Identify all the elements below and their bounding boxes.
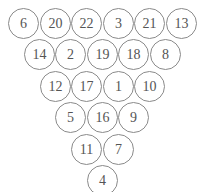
number-circle: 7 — [103, 134, 134, 165]
number-circle: 17 — [71, 71, 102, 102]
number-label: 12 — [49, 80, 63, 94]
number-label: 20 — [49, 17, 63, 31]
number-circle: 16 — [87, 102, 118, 133]
number-circle: 18 — [118, 39, 149, 70]
number-label: 2 — [67, 48, 74, 62]
number-circle: 21 — [134, 8, 165, 39]
number-label: 5 — [67, 111, 74, 125]
number-circle: 22 — [71, 8, 102, 39]
number-circle: 19 — [87, 39, 118, 70]
number-circle: 14 — [24, 39, 55, 70]
number-circle: 10 — [134, 71, 165, 102]
number-label: 1 — [115, 80, 122, 94]
number-label: 11 — [80, 143, 93, 157]
number-circle: 20 — [40, 8, 71, 39]
number-label: 14 — [33, 48, 47, 62]
number-label: 18 — [127, 48, 141, 62]
number-circle: 1 — [103, 71, 134, 102]
number-circle: 4 — [87, 165, 118, 192]
number-label: 8 — [162, 48, 169, 62]
number-circle: 11 — [71, 134, 102, 165]
number-circle: 12 — [40, 71, 71, 102]
number-circle: 13 — [166, 8, 197, 39]
number-label: 17 — [80, 80, 94, 94]
number-circle: 9 — [118, 102, 149, 133]
number-circle: 2 — [55, 39, 86, 70]
number-triangle: 6 20 22 3 21 13 14 2 19 18 8 12 17 1 10 … — [0, 0, 211, 192]
number-label: 13 — [175, 17, 189, 31]
number-label: 7 — [115, 143, 122, 157]
number-label: 3 — [115, 17, 122, 31]
number-label: 9 — [130, 111, 137, 125]
number-circle: 3 — [103, 8, 134, 39]
number-label: 19 — [96, 48, 110, 62]
number-label: 10 — [143, 80, 157, 94]
number-label: 6 — [20, 17, 27, 31]
number-label: 16 — [96, 111, 110, 125]
number-label: 21 — [143, 17, 157, 31]
number-circle: 5 — [55, 102, 86, 133]
number-circle: 8 — [150, 39, 181, 70]
number-label: 4 — [99, 174, 106, 188]
number-circle: 6 — [8, 8, 39, 39]
number-label: 22 — [80, 17, 94, 31]
